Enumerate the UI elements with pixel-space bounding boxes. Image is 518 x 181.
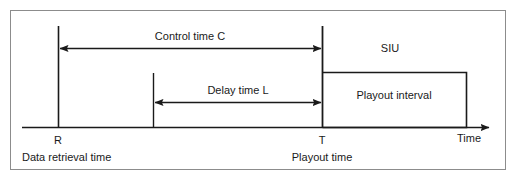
timing-diagram-figure: Control time C SIU Delay time L Playout … [0, 0, 518, 181]
control-time-label: Control time C [155, 30, 225, 42]
playout-time-caption: Playout time [292, 151, 353, 163]
siu-label: SIU [381, 42, 399, 54]
playout-interval-label: Playout interval [356, 89, 431, 101]
data-retrieval-time-caption: Data retrieval time [22, 151, 111, 163]
time-axis-label: Time [457, 132, 481, 144]
event-marker-label-r: R [54, 134, 62, 146]
delay-time-label: Delay time L [207, 84, 268, 96]
event-marker-label-t: T [319, 134, 326, 146]
